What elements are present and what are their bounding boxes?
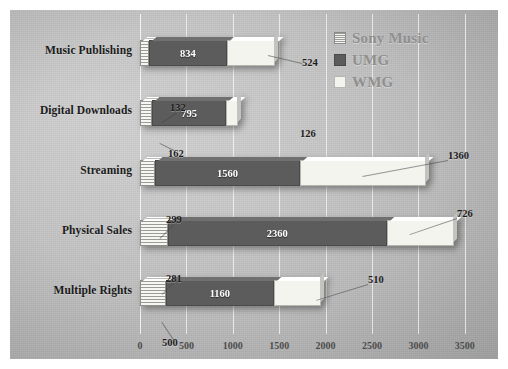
legend-item-umg[interactable]: UMG xyxy=(334,50,429,70)
chart-container: Music Publishing834Digital Downloads795S… xyxy=(10,10,498,359)
x-axis-tick-2500: 2500 xyxy=(362,340,382,351)
callout-value-500: 500 xyxy=(162,337,178,348)
callout-value-510: 510 xyxy=(368,274,384,285)
legend-label-sony: Sony Music xyxy=(352,30,429,47)
bar-row: Streaming1560 xyxy=(140,152,488,194)
legend-item-sony[interactable]: Sony Music xyxy=(334,28,429,48)
legend-label-umg: UMG xyxy=(352,52,389,69)
legend-swatch-wmg-icon xyxy=(334,76,346,88)
bar-segment-sony[interactable] xyxy=(140,160,155,186)
callout-value-126: 126 xyxy=(300,128,316,139)
bar-value-label: 2360 xyxy=(267,228,288,239)
bar-segment-wmg[interactable] xyxy=(300,160,426,186)
chart-legend: Sony MusicUMGWMG xyxy=(334,28,429,94)
bar-segment-sony[interactable] xyxy=(140,100,152,126)
bar-stack: 795 xyxy=(140,100,238,126)
bar-segment-sony[interactable] xyxy=(140,40,149,66)
bar-segment-umg[interactable]: 1560 xyxy=(155,160,300,186)
x-axis-tick-500: 500 xyxy=(179,340,194,351)
bar-value-label: 834 xyxy=(180,48,196,59)
bar-row: Physical Sales2360 xyxy=(140,212,488,254)
x-axis: 0500100015002000250030003500 xyxy=(140,340,488,356)
callout-value-726: 726 xyxy=(457,208,473,219)
callout-value-1360: 1360 xyxy=(448,150,469,161)
category-label-digital-downloads: Digital Downloads xyxy=(10,104,132,116)
bar-value-label: 1560 xyxy=(217,168,238,179)
category-label-physical-sales: Physical Sales xyxy=(10,224,132,236)
bar-segment-umg[interactable]: 834 xyxy=(149,40,226,66)
callout-value-162: 162 xyxy=(168,148,184,159)
bar-stack: 834 xyxy=(140,40,275,66)
bar-segment-umg[interactable]: 1160 xyxy=(166,280,274,306)
bar-segment-umg[interactable]: 2360 xyxy=(168,220,387,246)
x-axis-tick-2000: 2000 xyxy=(316,340,336,351)
bar-segment-wmg[interactable] xyxy=(387,220,454,246)
x-axis-tick-3500: 3500 xyxy=(455,340,475,351)
x-axis-tick-1500: 1500 xyxy=(269,340,289,351)
legend-swatch-sony-icon xyxy=(334,32,346,44)
category-label-multiple-rights: Multiple Rights xyxy=(10,284,132,296)
callout-value-524: 524 xyxy=(302,57,318,68)
bar-segment-wmg[interactable] xyxy=(274,280,321,306)
bar-value-label: 1160 xyxy=(210,288,230,299)
bar-segment-wmg[interactable] xyxy=(227,40,276,66)
bar-segment-wmg[interactable] xyxy=(226,100,238,126)
bar-stack: 2360 xyxy=(140,220,454,246)
callout-value-132: 132 xyxy=(170,102,186,113)
callout-value-299: 299 xyxy=(166,214,182,225)
callout-value-281: 281 xyxy=(166,273,182,284)
x-axis-tick-3000: 3000 xyxy=(408,340,428,351)
x-axis-tick-1000: 1000 xyxy=(223,340,243,351)
category-label-streaming: Streaming xyxy=(10,164,132,176)
legend-swatch-umg-icon xyxy=(334,54,346,66)
bar-row: Multiple Rights1160 xyxy=(140,272,488,314)
legend-label-wmg: WMG xyxy=(352,74,393,91)
x-axis-tick-0: 0 xyxy=(138,340,143,351)
category-label-music-publishing: Music Publishing xyxy=(10,44,132,56)
legend-item-wmg[interactable]: WMG xyxy=(334,72,429,92)
